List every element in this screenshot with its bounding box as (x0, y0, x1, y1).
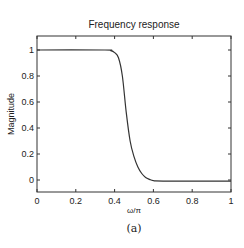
x-axis-label: ω/π (127, 206, 141, 215)
plot-area-frame (37, 36, 231, 192)
y-tick-labels: 00.20.40.60.81 (21, 45, 34, 185)
y-tick-label: 0.4 (21, 123, 34, 133)
x-tick-label: 0 (34, 196, 39, 206)
x-tick-labels: 00.20.40.60.81 (34, 196, 233, 206)
figure-caption: (a) (126, 222, 141, 235)
y-tick-label: 0 (29, 175, 34, 185)
y-tick-label: 0.8 (21, 71, 34, 81)
chart-title: Frequency response (88, 19, 180, 30)
magnitude-curve (37, 50, 231, 181)
y-tick-label: 1 (29, 45, 34, 55)
y-axis-label: Magnitude (6, 93, 16, 135)
frequency-response-chart: Frequency response 00.20.40.60.81 00.20.… (0, 0, 244, 248)
x-tick-label: 0.6 (147, 196, 160, 206)
axis-ticks (37, 36, 231, 192)
x-tick-label: 1 (228, 196, 233, 206)
y-tick-label: 0.6 (21, 97, 34, 107)
x-tick-label: 0.2 (70, 196, 83, 206)
x-tick-label: 0.4 (108, 196, 121, 206)
x-tick-label: 0.8 (186, 196, 199, 206)
y-tick-label: 0.2 (21, 149, 34, 159)
